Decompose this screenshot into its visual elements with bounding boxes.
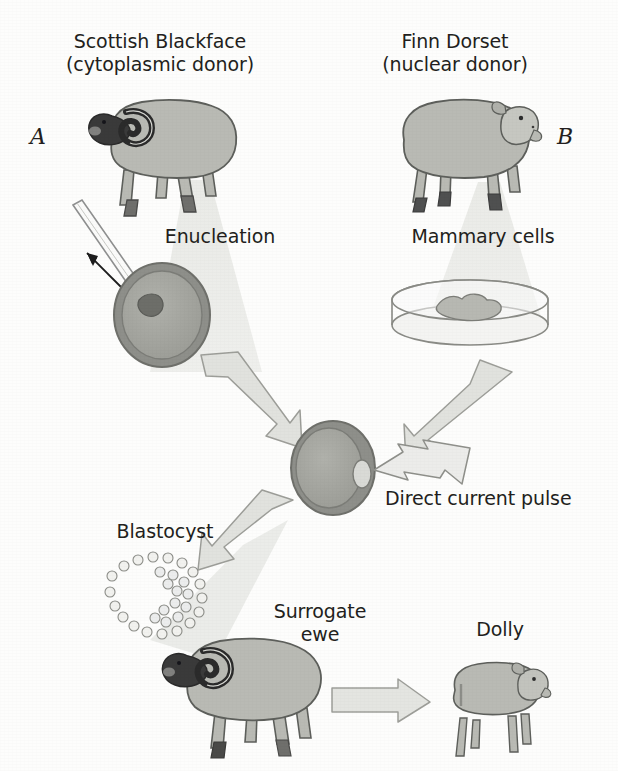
panel-letter-b: B [557,124,573,149]
label-enucleation: Enucleation [130,225,310,248]
blastocyst [105,552,207,639]
label-dolly: Dolly [440,618,560,641]
label-direct-current-pulse: Direct current pulse [385,487,615,510]
arrow-ewe-to-dolly [332,679,430,722]
diagram-illustration [0,0,618,771]
label-blastocyst: Blastocyst [95,520,235,543]
lamb-dolly [454,663,551,756]
oocyte-enucleation [114,263,210,367]
label-scottish-blackface: Scottish Blackface (cytoplasmic donor) [20,30,300,76]
petri-dish [392,280,548,345]
sheep-finn-dorset [403,100,541,212]
label-surrogate-ewe: Surrogate ewe [245,600,395,646]
sheep-surrogate-ewe [162,639,321,758]
label-mammary-cells: Mammary cells [388,225,578,248]
figure-canvas: Scottish Blackface (cytoplasmic donor) F… [0,0,618,771]
label-finn-dorset: Finn Dorset (nuclear donor) [330,30,580,76]
fused-cell [291,421,375,515]
panel-letter-a: A [30,124,46,149]
